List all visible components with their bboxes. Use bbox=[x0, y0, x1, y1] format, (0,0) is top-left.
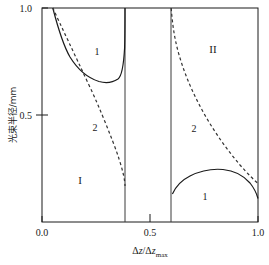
curve-label-right-dashed: 2 bbox=[192, 123, 197, 134]
xtick-label-0: 0.0 bbox=[36, 227, 49, 238]
y-axis-title: 光束半径/mm bbox=[7, 87, 18, 144]
curve-right-dashed bbox=[171, 8, 258, 184]
svg-text:Δz/Δzmax: Δz/Δzmax bbox=[132, 245, 168, 259]
region-label-one: I bbox=[78, 174, 82, 186]
plot-frame bbox=[42, 8, 258, 222]
ytick-label-0: 0.5 bbox=[20, 110, 33, 121]
xtick-label-2: 1.0 bbox=[252, 227, 265, 238]
curve-label-right-solid: 1 bbox=[203, 191, 208, 202]
beam-radius-plot: 1 2 2 1 I II 1.0 0.5 0.0 0.5 1.0 Δz/Δzma… bbox=[0, 0, 269, 265]
chart-figure: 1 2 2 1 I II 1.0 0.5 0.0 0.5 1.0 Δz/Δzma… bbox=[0, 0, 269, 265]
curve-label-left-solid: 1 bbox=[95, 46, 100, 57]
xtitle-sub: max bbox=[156, 251, 169, 259]
curve-left-dashed bbox=[53, 8, 125, 186]
curve-left-solid bbox=[53, 8, 125, 83]
ytick-label-1: 1.0 bbox=[20, 3, 33, 14]
xtick-label-1: 0.5 bbox=[144, 227, 157, 238]
region-label-two: II bbox=[209, 43, 217, 55]
curve-label-left-dashed: 2 bbox=[93, 122, 98, 133]
x-axis-title: Δz/Δzmax bbox=[132, 245, 168, 259]
curve-right-solid bbox=[172, 169, 258, 198]
